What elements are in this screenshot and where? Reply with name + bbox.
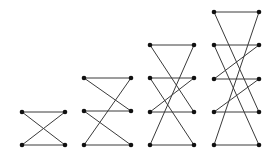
edge [214,79,259,112]
node [257,10,262,15]
node [192,76,197,81]
node [192,43,197,48]
node [257,143,262,148]
node [129,109,134,114]
node [148,110,153,115]
edge [150,45,194,145]
edge [214,45,259,79]
node [63,110,68,115]
node [192,110,197,115]
node [257,110,262,115]
node [82,76,87,81]
figure-ladder-4 [148,43,197,148]
edge [84,111,131,145]
crossed-ladder-diagram [0,0,277,153]
figure-ladder-5 [212,10,262,148]
node [63,143,68,148]
node [129,143,134,148]
figure-ladder-2 [20,110,68,148]
figure-ladder-3 [82,76,134,148]
node [129,76,134,81]
edge [84,78,131,111]
node [257,43,262,48]
node [257,77,262,82]
node [148,76,153,81]
node [212,143,217,148]
node [82,143,87,148]
node [212,77,217,82]
node [148,43,153,48]
node [20,143,25,148]
node [192,143,197,148]
node [20,110,25,115]
node [212,43,217,48]
node [212,10,217,15]
node [148,143,153,148]
node [82,109,87,114]
node [212,110,217,115]
